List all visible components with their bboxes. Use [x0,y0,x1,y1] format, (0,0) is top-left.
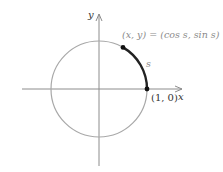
arc-length-label: s [146,59,151,69]
point-x-y [121,45,126,50]
unit-circle-diagram: y x (x, y) = (cos s, sin s) s (1, 0) [0,0,223,172]
point-1-0 [145,87,150,92]
diagram-canvas [0,0,223,172]
y-axis-label: y [88,10,94,20]
x-axis-label: x [178,92,184,102]
start-point-label: (1, 0) [151,93,178,103]
terminal-point-label: (x, y) = (cos s, sin s) [122,30,219,40]
arc-s [123,47,147,89]
